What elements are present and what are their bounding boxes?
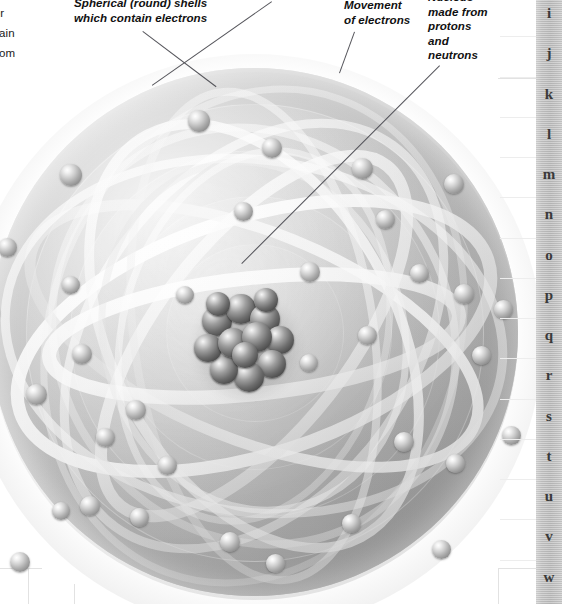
callout-nucleus-line2: made from xyxy=(428,5,512,20)
index-tab-separator xyxy=(500,399,536,400)
electron xyxy=(376,210,395,229)
callout-electrons: Electrons xyxy=(250,0,340,3)
electron xyxy=(394,432,414,452)
nucleon xyxy=(232,342,258,368)
callout-nucleus-line5: neutrons xyxy=(428,48,512,63)
index-tab-t[interactable]: t xyxy=(536,437,562,475)
index-tab-separator xyxy=(500,519,536,520)
index-tab-separator xyxy=(500,157,536,158)
electron xyxy=(176,286,194,304)
index-tab-separator xyxy=(500,479,536,480)
electron xyxy=(126,400,146,420)
electron xyxy=(446,454,465,473)
nucleus xyxy=(192,290,300,396)
index-tab-letter: w xyxy=(544,569,555,586)
electron xyxy=(262,138,282,158)
electron xyxy=(52,502,70,520)
electron xyxy=(234,202,253,221)
index-tab-q[interactable]: q xyxy=(536,316,562,354)
index-tab-p[interactable]: p xyxy=(536,276,562,314)
index-tab-letter: u xyxy=(545,488,553,505)
electron xyxy=(130,508,149,527)
index-tab-j[interactable]: j xyxy=(536,34,562,72)
body-copy-line: ith a certain xyxy=(0,23,66,43)
electron xyxy=(220,532,240,552)
callout-movement: Movement of electrons xyxy=(344,0,434,27)
index-tab-separator xyxy=(500,358,536,359)
index-tab-k[interactable]: k xyxy=(536,75,562,113)
electron xyxy=(10,552,30,572)
electron xyxy=(266,554,285,573)
electron xyxy=(454,284,474,304)
index-tab-strip[interactable]: ijklmnopqrstuvw xyxy=(536,0,562,604)
electron xyxy=(444,174,464,194)
electron xyxy=(494,300,513,319)
index-tab-letter: t xyxy=(547,448,552,465)
electron xyxy=(342,514,361,533)
electron xyxy=(72,344,92,364)
index-tab-n[interactable]: n xyxy=(536,195,562,233)
electron xyxy=(300,262,320,282)
electron xyxy=(188,110,210,132)
index-tab-u[interactable]: u xyxy=(536,477,562,515)
index-tab-letter: l xyxy=(547,126,551,143)
index-tab-letter: k xyxy=(545,86,553,103)
electron xyxy=(410,264,429,283)
electron xyxy=(80,496,100,516)
index-tab-letter: i xyxy=(547,5,551,22)
index-tab-separator xyxy=(500,238,536,239)
index-tab-separator xyxy=(500,197,536,198)
index-tab-letter: p xyxy=(545,287,553,304)
callout-movement-line2: of electrons xyxy=(344,13,434,28)
callout-nucleus: Nucleus made from protons and neutrons xyxy=(428,0,512,63)
callout-shells: Spherical (round) shells which contain e… xyxy=(74,0,254,25)
callout-shells-line2: which contain electrons xyxy=(74,11,254,26)
electron xyxy=(60,164,82,186)
index-tab-letter: n xyxy=(545,206,553,223)
index-tab-letter: m xyxy=(543,166,556,183)
atom-illustration xyxy=(0,54,542,604)
index-tab-o[interactable]: o xyxy=(536,236,562,274)
callout-movement-line1: Movement xyxy=(344,0,434,13)
index-tab-separator xyxy=(500,278,536,279)
index-tab-s[interactable]: s xyxy=(536,397,562,435)
nucleon xyxy=(254,288,278,312)
index-tab-r[interactable]: r xyxy=(536,356,562,394)
index-tab-w[interactable]: w xyxy=(536,558,562,596)
electron xyxy=(300,354,318,372)
index-tab-separator xyxy=(500,77,536,78)
index-tab-l[interactable]: l xyxy=(536,115,562,153)
electron xyxy=(432,540,451,559)
index-tab-letter: o xyxy=(545,247,553,264)
electron xyxy=(62,276,80,294)
index-tab-separator xyxy=(500,117,536,118)
illustration-page: micals, or ith a certain anium atom er t… xyxy=(0,0,562,604)
index-tab-letter: r xyxy=(546,367,553,384)
electron xyxy=(158,456,177,475)
index-tab-separator xyxy=(500,318,536,319)
index-tab-letter: v xyxy=(545,528,553,545)
callout-electrons-text: Electrons xyxy=(250,0,340,3)
index-tab-separator xyxy=(500,36,536,37)
body-copy-line: micals, or xyxy=(0,3,66,23)
electron xyxy=(358,326,377,345)
electron xyxy=(26,384,47,405)
index-tab-letter: q xyxy=(545,327,553,344)
index-tab-v[interactable]: v xyxy=(536,517,562,555)
index-tab-separator xyxy=(500,439,536,440)
index-tab-m[interactable]: m xyxy=(536,155,562,193)
electron xyxy=(472,346,491,365)
electron xyxy=(352,158,373,179)
nucleon xyxy=(206,292,230,316)
electron xyxy=(96,428,115,447)
index-tab-separator xyxy=(500,560,536,561)
callout-shells-line1: Spherical (round) shells xyxy=(74,0,254,11)
callout-nucleus-line3: protons xyxy=(428,19,512,34)
index-tab-letter: s xyxy=(546,408,552,425)
index-tab-i[interactable]: i xyxy=(536,0,562,32)
electron xyxy=(502,426,521,445)
index-tab-letter: j xyxy=(547,45,552,62)
